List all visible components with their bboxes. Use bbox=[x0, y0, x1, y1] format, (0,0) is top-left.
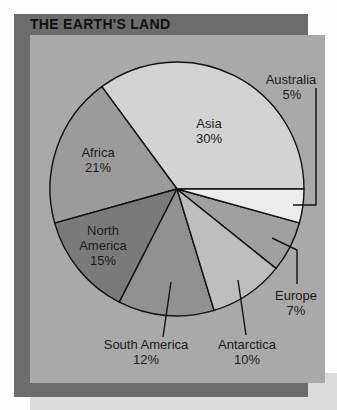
label-south-america-name: South America bbox=[104, 337, 189, 352]
label-asia-name: Asia bbox=[196, 116, 222, 131]
label-australia-pct: 5% bbox=[283, 87, 302, 102]
pie-slices bbox=[50, 62, 304, 316]
label-north-america-line2: America bbox=[79, 238, 127, 253]
label-africa-name: Africa bbox=[81, 145, 115, 160]
label-africa-pct: 21% bbox=[85, 160, 111, 175]
label-north-america-line1: North bbox=[87, 223, 119, 238]
pie-chart: Asia 30% Africa 21% North America 15% So… bbox=[0, 0, 337, 410]
label-australia-name: Australia bbox=[266, 72, 317, 87]
label-asia-pct: 30% bbox=[196, 131, 222, 146]
label-antarctica-pct: 10% bbox=[234, 352, 260, 367]
label-europe-name: Europe bbox=[275, 288, 317, 303]
label-antarctica-name: Antarctica bbox=[218, 337, 277, 352]
label-europe-pct: 7% bbox=[287, 303, 306, 318]
label-north-america-pct: 15% bbox=[90, 253, 116, 268]
label-south-america-pct: 12% bbox=[133, 352, 159, 367]
